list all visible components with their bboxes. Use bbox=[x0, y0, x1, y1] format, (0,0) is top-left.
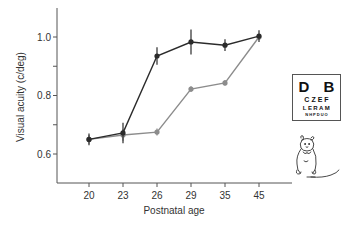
mouse-icon bbox=[293, 134, 343, 184]
data-point bbox=[188, 39, 193, 44]
x-tick-label: 45 bbox=[253, 190, 265, 201]
series-grey bbox=[86, 34, 261, 144]
data-point bbox=[222, 80, 227, 85]
series-dark bbox=[86, 29, 261, 145]
eye-chart-row: LERAM bbox=[294, 105, 340, 111]
y-axis-label: Visual acuity (c/deg) bbox=[15, 52, 26, 142]
series-line bbox=[89, 36, 259, 139]
data-point bbox=[256, 34, 261, 39]
eye-chart-row: D B bbox=[298, 79, 340, 94]
y-tick-label: 0.6 bbox=[37, 149, 51, 160]
data-point bbox=[188, 86, 193, 91]
x-tick-label: 20 bbox=[83, 190, 95, 201]
x-axis-label: Postnatal age bbox=[143, 205, 205, 216]
data-point bbox=[154, 129, 159, 134]
y-tick-label: 1.0 bbox=[37, 32, 51, 43]
x-tick-label: 26 bbox=[151, 190, 163, 201]
data-point bbox=[120, 130, 125, 135]
series-line bbox=[89, 37, 259, 139]
x-tick-label: 29 bbox=[185, 190, 197, 201]
eye-chart-row: NHPDUO bbox=[294, 113, 340, 117]
eye-chart-row: CZEF bbox=[295, 96, 340, 103]
data-point bbox=[154, 53, 159, 58]
x-tick-label: 35 bbox=[219, 190, 231, 201]
y-tick-label: 0.8 bbox=[37, 90, 51, 101]
x-tick-label: 23 bbox=[117, 190, 129, 201]
data-point bbox=[222, 43, 227, 48]
data-point bbox=[86, 137, 91, 142]
eye-chart: D B CZEF LERAM NHPDUO bbox=[292, 74, 341, 121]
